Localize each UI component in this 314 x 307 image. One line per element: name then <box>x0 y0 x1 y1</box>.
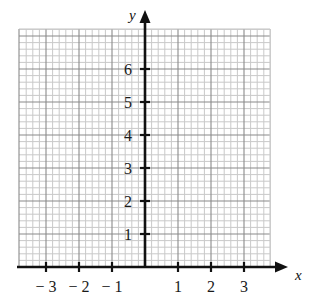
y-tick-label: 5 <box>124 94 132 111</box>
coordinate-plot: − 3− 2− 1123123456 xy <box>0 0 314 307</box>
x-tick-label: 2 <box>207 278 215 295</box>
y-axis-label: y <box>127 7 136 23</box>
plot-background <box>0 0 314 307</box>
coordinate-grid-figure: − 3− 2− 1123123456 xy <box>0 0 314 307</box>
x-axis-label: x <box>294 267 302 283</box>
x-tick-label: − 2 <box>68 278 89 295</box>
x-tick-label: 3 <box>240 278 248 295</box>
y-tick-label: 4 <box>124 127 132 144</box>
x-tick-label: 1 <box>174 278 182 295</box>
y-tick-label: 1 <box>124 226 132 243</box>
x-tick-label: − 3 <box>35 278 56 295</box>
x-tick-label: − 1 <box>101 278 122 295</box>
y-tick-label: 3 <box>124 160 132 177</box>
y-tick-label: 2 <box>124 193 132 210</box>
y-tick-label: 6 <box>124 61 132 78</box>
